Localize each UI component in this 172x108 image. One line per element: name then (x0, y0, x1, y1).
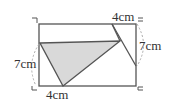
corner-mark-tr (138, 18, 143, 21)
shaded-triangle (40, 41, 120, 86)
fold-line-inner (112, 24, 120, 41)
top-length-label: 4cm (112, 10, 134, 23)
corner-mark-bl (32, 86, 37, 90)
bottom-length-label: 4cm (46, 88, 68, 101)
corner-mark-tl (32, 18, 37, 23)
left-length-label: 7cm (14, 57, 36, 70)
figure (0, 0, 172, 108)
right-length-label: 7cm (139, 39, 161, 52)
corner-mark-br (138, 87, 143, 90)
